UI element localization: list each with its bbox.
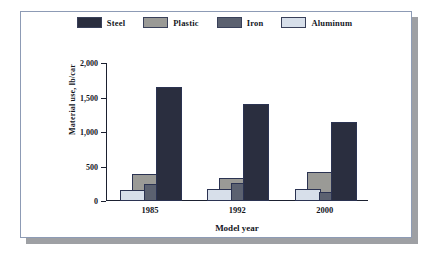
chart-page: SteelPlasticIronAluminum Material use, l… [0, 0, 429, 265]
y-tick [101, 167, 106, 168]
y-tick [101, 98, 106, 99]
y-tick-label: 1,000 [80, 128, 98, 137]
bar-aluminum-1985 [120, 190, 146, 201]
y-tick-label: 1,500 [80, 93, 98, 102]
bar-steel-1992 [243, 104, 269, 201]
y-tick-label: 500 [86, 162, 98, 171]
bar-steel-1985 [156, 87, 182, 201]
x-tick-label: 1985 [142, 205, 159, 215]
y-tick-label: 0 [94, 197, 98, 206]
y-tick [101, 63, 106, 64]
y-tick [101, 132, 106, 133]
x-tick-label: 2000 [316, 205, 333, 215]
x-tick-label: 1992 [229, 205, 246, 215]
y-axis-label: Material use, lb/car [68, 40, 77, 160]
y-tick-label: 2,000 [80, 59, 98, 68]
bar-steel-2000 [331, 122, 357, 201]
y-tick [101, 201, 106, 202]
bar-aluminum-1992 [207, 189, 233, 201]
x-axis-label: Model year [106, 223, 368, 233]
plot-area: Material use, lb/car Model year 05001,00… [20, 11, 412, 238]
bar-aluminum-2000 [295, 189, 321, 201]
y-axis-line [106, 63, 107, 201]
axes: Model year 05001,0001,5002,0001985199220… [106, 57, 368, 201]
